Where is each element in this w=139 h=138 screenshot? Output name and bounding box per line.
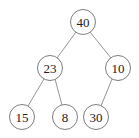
- edge-40-10: [90, 32, 111, 58]
- tree-node-30: 30: [84, 105, 109, 130]
- node-label: 10: [112, 61, 125, 76]
- edge-10-30: [101, 79, 112, 106]
- binary-tree-diagram: 40 23 10 15 8 30: [0, 0, 139, 138]
- tree-node-15: 15: [10, 105, 35, 130]
- node-label: 40: [77, 15, 90, 30]
- node-label: 30: [90, 110, 103, 125]
- edge-40-23: [57, 32, 76, 58]
- tree-node-8: 8: [53, 105, 78, 130]
- tree-node-10: 10: [106, 56, 131, 81]
- tree-node-23: 23: [38, 56, 63, 81]
- edge-23-15: [28, 79, 44, 106]
- node-label: 23: [44, 61, 57, 76]
- edge-23-8: [55, 79, 62, 105]
- tree-node-40: 40: [71, 10, 96, 35]
- node-label: 15: [16, 110, 29, 125]
- node-label: 8: [62, 110, 69, 125]
